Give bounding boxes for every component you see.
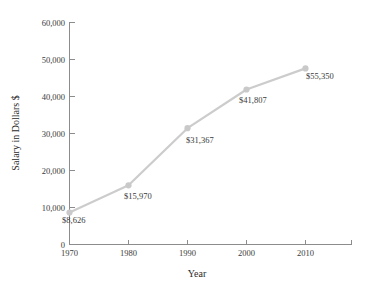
y-axis-ticks xyxy=(70,23,75,208)
x-axis-ticks xyxy=(70,240,352,245)
data-point-label: $41,807 xyxy=(239,95,267,105)
chart-axes xyxy=(70,22,353,245)
y-tick-label: 50,000 xyxy=(42,55,65,65)
data-point-marker[interactable] xyxy=(243,86,249,92)
y-tick-label: 60,000 xyxy=(42,18,65,28)
chart-container: 60,000 50,000 40,000 30,000 20,000 10,00… xyxy=(0,0,370,290)
x-axis-title: Year xyxy=(188,268,207,279)
data-point-label: $55,350 xyxy=(306,71,334,81)
x-tick-label: 1980 xyxy=(120,248,137,258)
y-tick-label: 40,000 xyxy=(42,92,65,102)
x-tick-label: 1990 xyxy=(179,248,196,258)
data-point-marker[interactable] xyxy=(184,125,190,131)
data-point-label: $31,367 xyxy=(186,135,214,145)
y-tick-label: 10,000 xyxy=(42,203,65,213)
x-tick-label: 2000 xyxy=(238,248,255,258)
y-axis-title: Salary in Dollars $ xyxy=(10,95,21,170)
y-tick-label: 20,000 xyxy=(42,166,65,176)
data-point-labels: $8,626 $15,970 $31,367 $41,807 $55,350 xyxy=(62,71,334,225)
x-tick-label: 2010 xyxy=(297,248,314,258)
data-point-label: $8,626 xyxy=(62,215,85,225)
x-axis-tick-labels: 1970 1980 1990 2000 2010 xyxy=(61,248,314,258)
x-tick-label: 1970 xyxy=(61,248,78,258)
data-point-label: $15,970 xyxy=(124,191,152,201)
line-chart: 60,000 50,000 40,000 30,000 20,000 10,00… xyxy=(0,0,370,290)
y-tick-label: 30,000 xyxy=(42,129,65,139)
data-point-marker[interactable] xyxy=(125,182,131,188)
